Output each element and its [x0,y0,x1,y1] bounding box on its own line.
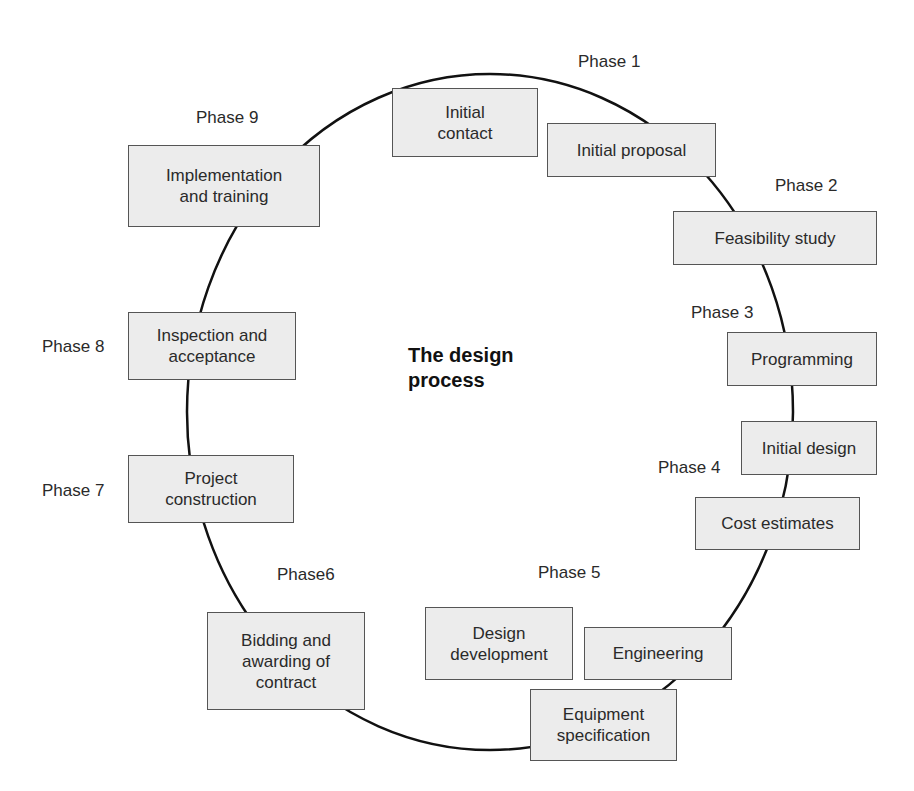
phase-7-label: Phase 7 [42,481,104,501]
step-engineering: Engineering [584,627,732,680]
diagram-title: The design process [408,343,514,393]
step-design-development: Design development [425,607,573,680]
phase-1-label: Phase 1 [578,52,640,72]
step-initial-design: Initial design [741,421,877,475]
step-cost-estimates: Cost estimates [695,497,860,550]
step-project-construction: Project construction [128,455,294,523]
step-equipment-specification: Equipment specification [530,689,677,761]
step-inspection-acceptance: Inspection and acceptance [128,312,296,380]
phase-2-label: Phase 2 [775,176,837,196]
step-feasibility-study: Feasibility study [673,211,877,265]
phase-8-label: Phase 8 [42,337,104,357]
phase-4-label: Phase 4 [658,458,720,478]
step-initial-contact: Initial contact [392,88,538,157]
phase-6-label: Phase6 [277,565,335,585]
phase-9-label: Phase 9 [196,108,258,128]
phase-3-label: Phase 3 [691,303,753,323]
step-initial-proposal: Initial proposal [547,123,716,177]
phase-5-label: Phase 5 [538,563,600,583]
step-programming: Programming [727,332,877,386]
step-implementation-training: Implementation and training [128,145,320,227]
step-bidding-awarding-contract: Bidding and awarding of contract [207,612,365,710]
